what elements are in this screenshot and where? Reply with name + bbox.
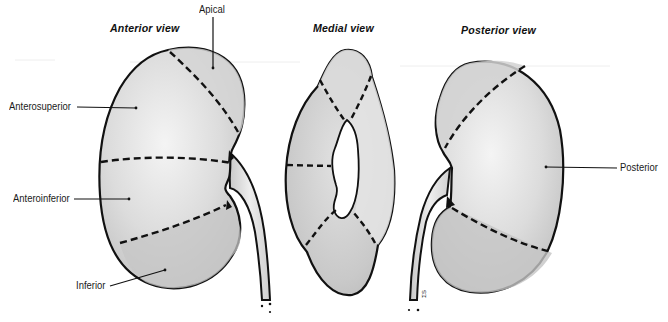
medial-kidney bbox=[286, 50, 395, 295]
view-title-medial: Medial view bbox=[313, 22, 374, 34]
kidney-segments-figure: Anterior view Medial view Posterior view… bbox=[0, 0, 668, 322]
label-anteroinferior: Anteroinferior bbox=[13, 192, 70, 204]
kidney-illustration bbox=[0, 0, 668, 322]
anterior-kidney bbox=[99, 48, 271, 313]
label-anterosuperior: Anterosuperior bbox=[9, 100, 71, 112]
label-apical: Apical bbox=[199, 3, 225, 15]
label-posterior: Posterior bbox=[620, 161, 658, 173]
artist-initials: ΣS bbox=[421, 290, 427, 298]
view-title-posterior: Posterior view bbox=[461, 24, 536, 36]
view-title-anterior: Anterior view bbox=[110, 22, 179, 34]
posterior-kidney bbox=[408, 61, 563, 312]
label-inferior: Inferior bbox=[76, 279, 105, 291]
